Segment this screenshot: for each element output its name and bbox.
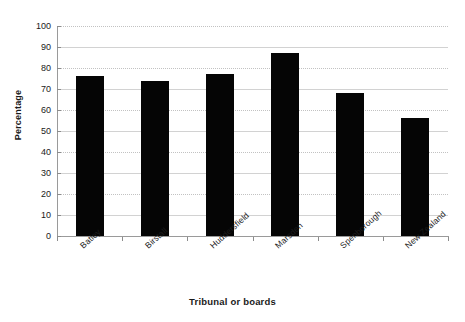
x-axis-title: Tribunal or boards xyxy=(0,296,465,307)
bar xyxy=(206,74,234,236)
clipped-caption-fragment xyxy=(96,0,396,4)
y-axis-tick-label: 80 xyxy=(5,63,51,73)
y-axis-tick-label: 40 xyxy=(5,147,51,157)
y-axis-tick-mark xyxy=(57,89,61,90)
y-axis-tick-mark xyxy=(57,68,61,69)
bar xyxy=(401,118,429,236)
x-axis-tick-mark xyxy=(253,237,254,241)
y-axis-tick-label: 20 xyxy=(5,189,51,199)
y-axis-tick-label: 10 xyxy=(5,210,51,220)
y-axis-tick-label: 30 xyxy=(5,168,51,178)
bar xyxy=(76,76,104,236)
y-axis-tick-mark xyxy=(57,47,61,48)
y-axis-tick-mark xyxy=(57,110,61,111)
x-axis-tick-mark xyxy=(383,237,384,241)
bar xyxy=(271,53,299,236)
bar xyxy=(336,93,364,236)
y-axis-tick-label: 70 xyxy=(5,84,51,94)
x-axis-tick-mark xyxy=(318,237,319,241)
y-axis-tick-mark xyxy=(57,173,61,174)
y-axis-tick-mark xyxy=(57,215,61,216)
y-axis-tick-label: 50 xyxy=(5,126,51,136)
x-axis-tick-mark xyxy=(57,237,58,241)
bar-chart: Percentage 0102030405060708090100 Tribun… xyxy=(0,0,465,322)
bar xyxy=(141,81,169,236)
y-axis-tick-mark xyxy=(57,152,61,153)
y-axis-tick-mark xyxy=(57,194,61,195)
x-axis-tick-mark xyxy=(187,237,188,241)
y-axis-tick-label: 100 xyxy=(5,21,51,31)
y-axis-tick-labels: 0102030405060708090100 xyxy=(5,26,51,236)
bars-layer xyxy=(57,26,448,236)
y-axis-tick-mark xyxy=(57,26,61,27)
x-axis-tick-mark xyxy=(122,237,123,241)
y-axis-tick-mark xyxy=(57,131,61,132)
y-axis-tick-label: 90 xyxy=(5,42,51,52)
y-axis-tick-label: 60 xyxy=(5,105,51,115)
x-axis-tick-mark xyxy=(448,237,449,241)
y-axis-tick-label: 0 xyxy=(5,231,51,241)
